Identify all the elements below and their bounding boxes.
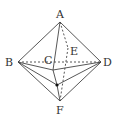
label-B: B <box>5 56 13 69</box>
solid-diagram: A B C D E F <box>0 0 123 124</box>
label-D: D <box>103 56 112 69</box>
label-C: C <box>44 54 52 67</box>
label-A: A <box>55 8 65 21</box>
edge-AB <box>18 22 60 62</box>
vertex-dot <box>55 83 58 86</box>
edge-EF-hidden <box>60 48 68 101</box>
label-E: E <box>70 45 78 58</box>
label-F: F <box>56 104 64 117</box>
edge-AC <box>53 22 60 70</box>
